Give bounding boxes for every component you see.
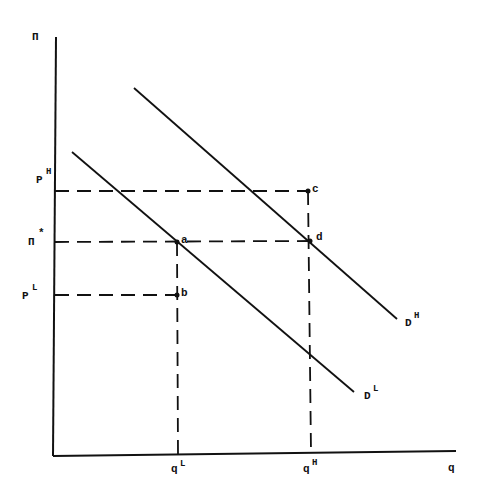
svg-text:q: q	[303, 463, 310, 475]
y-axis-label: Π	[32, 31, 39, 43]
svg-text:*: *	[38, 227, 45, 239]
svg-text:L: L	[373, 384, 378, 394]
svg-text:Π: Π	[28, 236, 35, 248]
x-axis	[53, 451, 456, 456]
y-axis	[53, 37, 56, 456]
point-b	[175, 293, 180, 298]
svg-text:L: L	[32, 283, 37, 293]
svg-text:H: H	[312, 458, 317, 468]
svg-text:q: q	[171, 463, 178, 475]
svg-text:D: D	[405, 317, 412, 329]
point-a	[175, 240, 180, 245]
label-demand-low: D L	[364, 384, 378, 402]
label-p-low: P L	[22, 283, 37, 302]
label-pi-star: Π *	[28, 227, 45, 248]
svg-text:L: L	[180, 459, 185, 469]
label-point-b: b	[181, 287, 188, 299]
demand-diagram: a b c d Π P H Π * P L q L q H q D H D L	[0, 0, 478, 500]
guide-q-high	[308, 191, 311, 452]
label-point-a: a	[181, 234, 188, 246]
guide-q-low	[177, 242, 178, 455]
label-q-high: q H	[303, 458, 317, 475]
label-point-d: d	[316, 231, 323, 243]
label-demand-high: D H	[405, 311, 419, 329]
svg-text:P: P	[36, 174, 43, 186]
point-d	[308, 239, 313, 244]
point-c	[306, 189, 311, 194]
label-p-high: P H	[36, 167, 51, 186]
svg-text:H: H	[414, 311, 419, 321]
svg-text:H: H	[46, 167, 51, 177]
x-axis-label: q	[448, 462, 455, 474]
label-point-c: c	[312, 183, 319, 195]
svg-text:P: P	[22, 290, 29, 302]
svg-text:D: D	[364, 390, 371, 402]
label-q-low: q L	[171, 459, 185, 475]
demand-curve-high	[134, 88, 397, 319]
